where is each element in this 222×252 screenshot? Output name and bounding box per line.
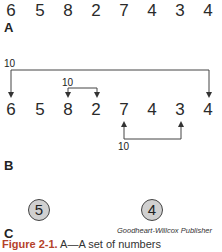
circled-number: 4	[141, 199, 163, 221]
sum-label-outer: 10	[4, 58, 15, 69]
panel-label-b: B	[4, 158, 13, 173]
number: 3	[173, 101, 187, 118]
sum-label-bottom: 10	[118, 141, 129, 152]
number: 6	[4, 101, 18, 118]
number: 4	[201, 101, 215, 118]
figure-caption: Figure 2-1. A—A set of numbers	[2, 238, 161, 250]
number: 8	[61, 101, 75, 118]
number: 5	[33, 101, 47, 118]
caption-text: A—A set of numbers	[58, 238, 161, 250]
circled-number: 5	[28, 199, 50, 221]
number: 7	[117, 101, 131, 118]
figure-label: Figure 2-1.	[2, 238, 58, 250]
number: 2	[89, 101, 103, 118]
publisher-credit: Goodheart-Willcox Publisher	[117, 226, 212, 235]
sum-label-inner: 10	[62, 77, 73, 88]
number: 4	[145, 101, 159, 118]
